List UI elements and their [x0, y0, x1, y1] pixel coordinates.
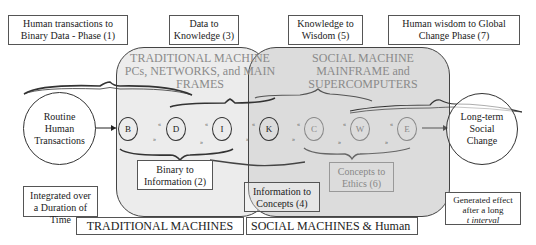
- separator-symbol: «: [205, 121, 208, 127]
- node-k-label: K: [266, 124, 273, 134]
- node-i-label: I: [221, 124, 224, 134]
- separator-symbol: »: [200, 139, 203, 145]
- separator-symbol: »: [153, 136, 156, 142]
- left-circle-line3: Transactions: [34, 135, 85, 147]
- separator-symbol: »: [338, 139, 341, 145]
- node-knowledge: K: [259, 117, 279, 141]
- node-w-label: W: [356, 124, 365, 134]
- phase7-label: Human wisdom to Global Change Phase (7): [388, 15, 520, 45]
- node-binary: B: [118, 117, 138, 141]
- separator-symbol: »: [292, 136, 295, 142]
- integrated-duration-label: Integrated over a Duration of Time: [23, 186, 98, 217]
- right-circle-line2: Social: [461, 123, 504, 135]
- phase2-label: Binary to Information (2): [137, 160, 213, 190]
- integrated-line1: Integrated over: [24, 190, 97, 202]
- phase1-label: Human transactions to Binary Data - Phas…: [8, 15, 128, 45]
- generated-effect-label: Generated effect after a long t interval: [445, 192, 521, 225]
- traditional-machines-text: TRADITIONAL MACHINES: [87, 219, 234, 233]
- separator-symbol: «: [297, 121, 300, 127]
- separator-symbol: «: [390, 121, 393, 127]
- node-b-label: B: [125, 124, 131, 134]
- left-circle-line2: Human: [34, 123, 85, 135]
- phase5-label: Knowledge to Wisdom (5): [288, 15, 363, 45]
- separator-symbol: «: [252, 121, 255, 127]
- phase1-text: Human transactions to Binary Data - Phas…: [21, 18, 115, 41]
- social-machines-human-text: SOCIAL MACHINES & Human: [251, 219, 410, 233]
- node-ethics: E: [397, 117, 417, 141]
- node-d-label: D: [173, 124, 180, 134]
- phase4-line1: Information to: [245, 186, 319, 198]
- phase6-line1: Concepts to: [330, 166, 393, 178]
- traditional-machines-label: TRADITIONAL MACHINES: [76, 217, 244, 235]
- routine-human-transactions-circle: Routine Human Transactions: [23, 92, 96, 165]
- phase7-text: Human wisdom to Global Change Phase (7): [402, 18, 506, 41]
- phase2-line1: Binary to: [138, 164, 212, 176]
- separator-symbol: »: [385, 139, 388, 145]
- long-term-social-change-circle: Long-term Social Change: [446, 93, 518, 165]
- generated-line2: after a long: [446, 205, 520, 215]
- node-c-label: C: [311, 124, 317, 134]
- separator-symbol: «: [343, 121, 346, 127]
- phase5-text: Knowledge to Wisdom (5): [297, 18, 353, 41]
- node-e-label: E: [404, 124, 410, 134]
- node-wisdom: W: [350, 117, 370, 141]
- separator-symbol: »: [246, 136, 249, 142]
- phase3-label: Data to Knowledge (3): [169, 15, 239, 45]
- right-circle-line3: Change: [461, 135, 504, 147]
- node-data: D: [166, 117, 186, 141]
- phase4-line2: Concepts (4): [245, 198, 319, 210]
- phase2-line2: Information (2): [138, 176, 212, 188]
- right-circle-line1: Long-term: [461, 111, 504, 123]
- phase6-label: Concepts to Ethics (6): [329, 162, 394, 192]
- phase4-label: Information to Concepts (4): [244, 182, 320, 212]
- generated-line1: Generated effect: [446, 195, 520, 205]
- generated-line3: t interval: [446, 215, 520, 225]
- social-machines-human-label: SOCIAL MACHINES & Human: [246, 217, 418, 235]
- left-circle-line1: Routine: [34, 111, 85, 123]
- node-information: I: [212, 117, 232, 141]
- separator-symbol: «: [158, 121, 161, 127]
- phase3-text: Data to Knowledge (3): [174, 18, 234, 41]
- node-concepts: C: [304, 117, 324, 141]
- phase6-line2: Ethics (6): [330, 178, 393, 190]
